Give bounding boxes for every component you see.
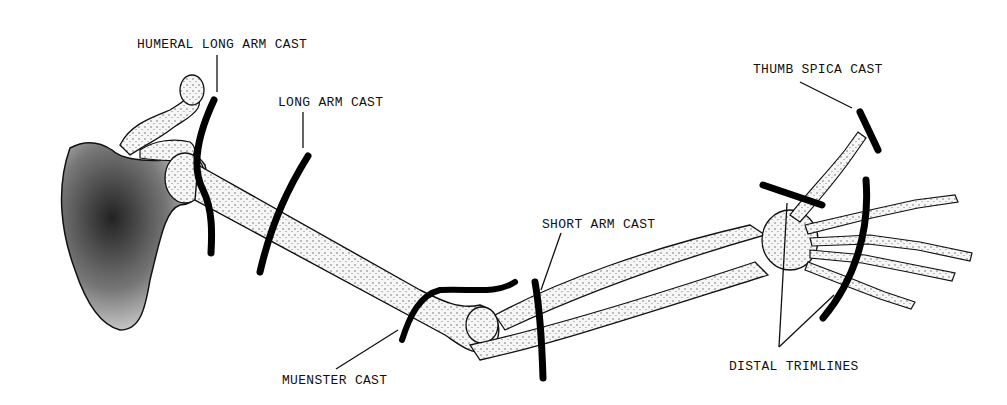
distal-palm-trimline: [823, 180, 867, 318]
cast-trimline-diagram: HUMERAL LONG ARM CAST LONG ARM CAST THUM…: [0, 0, 1007, 405]
label-thumb-spica-cast: THUMB SPICA CAST: [753, 62, 883, 77]
humerus: [195, 165, 499, 352]
label-muenster-cast: MUENSTER CAST: [282, 373, 387, 388]
scapula: [62, 75, 206, 330]
arm-skeleton-illustration: [0, 0, 1007, 405]
hand-bones: [790, 132, 972, 309]
forearm-bones: [470, 225, 768, 360]
label-humeral-long-arm-cast: HUMERAL LONG ARM CAST: [137, 37, 307, 52]
thumb-spica-trimline: [860, 112, 878, 150]
carpals: [762, 210, 818, 270]
label-distal-trimlines: DISTAL TRIMLINES: [729, 359, 859, 374]
label-long-arm-cast: LONG ARM CAST: [278, 95, 383, 110]
label-short-arm-cast: SHORT ARM CAST: [542, 217, 655, 232]
